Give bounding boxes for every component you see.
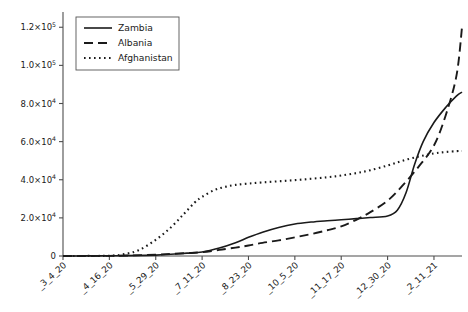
series-line-zambia	[63, 92, 462, 256]
y-tick-label: 0	[51, 251, 56, 261]
chart-figure: 02.0×1044.0×1046.0×1048.0×1041.0×1051.2×…	[0, 0, 468, 312]
x-tick-label: _12_30_20	[351, 260, 393, 300]
x-tick-label: _2_11_21	[401, 260, 439, 296]
x-axis: _3_4_20_4_16_20_5_29_20_7_11_20_8_23_20_…	[34, 256, 462, 299]
y-tick-label: 1.0×105	[21, 59, 56, 71]
x-tick-label: _7_11_20	[169, 260, 207, 296]
x-tick-label: _4_16_20	[77, 260, 115, 296]
y-axis-ticks: 02.0×1044.0×1046.0×1048.0×1041.0×1051.2×…	[21, 21, 63, 261]
legend-label-zambia: Zambia	[118, 22, 153, 33]
x-axis-ticks: _3_4_20_4_16_20_5_29_20_7_11_20_8_23_20_…	[34, 256, 439, 299]
y-tick-label: 6.0×104	[21, 135, 56, 147]
legend-label-afghanistan: Afghanistan	[118, 52, 173, 63]
x-tick-label: _8_23_20	[216, 260, 254, 296]
x-tick-label: _3_4_20	[34, 260, 68, 292]
y-tick-label: 2.0×104	[21, 211, 56, 223]
y-tick-label: 8.0×104	[21, 97, 56, 109]
y-tick-label: 4.0×104	[21, 173, 56, 185]
chart-legend: ZambiaAlbaniaAfghanistan	[76, 17, 179, 70]
x-tick-label: _5_29_20	[123, 260, 161, 296]
line-chart: 02.0×1044.0×1046.0×1048.0×1041.0×1051.2×…	[0, 0, 468, 312]
legend-label-albania: Albania	[118, 37, 152, 48]
y-axis: 02.0×1044.0×1046.0×1048.0×1041.0×1051.2×…	[21, 12, 63, 261]
x-tick-label: _11_17_20	[304, 260, 346, 300]
y-tick-label: 1.2×105	[21, 21, 56, 33]
x-tick-label: _10_5_20	[262, 260, 300, 296]
